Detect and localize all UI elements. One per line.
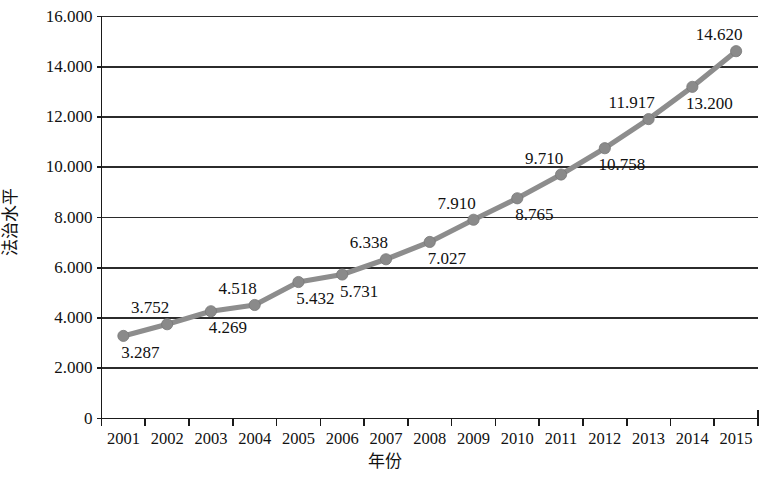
data-point-marker xyxy=(249,299,260,310)
y-axis-tick-label: 0 xyxy=(84,410,93,427)
y-axis-tick-label: 6.000 xyxy=(54,259,92,276)
y-axis-tick-label: 2.000 xyxy=(54,359,92,376)
line-chart: 02.0004.0006.0008.00010.00012.00014.0001… xyxy=(0,0,770,482)
data-point-marker xyxy=(162,319,173,330)
data-point-label: 4.518 xyxy=(208,280,268,298)
data-point-marker xyxy=(468,214,479,225)
data-point-marker xyxy=(555,169,566,180)
data-point-marker xyxy=(337,269,348,280)
data-point-marker xyxy=(731,46,742,57)
x-axis-tick-label: 2015 xyxy=(708,430,764,447)
y-axis-tick-label: 12.000 xyxy=(46,108,93,125)
y-axis-title: 法治水平 xyxy=(1,174,20,270)
data-point-label: 8.765 xyxy=(504,206,564,224)
data-point-label: 4.269 xyxy=(198,319,258,337)
data-point-label: 6.338 xyxy=(339,234,399,252)
data-point-label: 9.710 xyxy=(514,150,574,168)
y-axis-tick-label: 14.000 xyxy=(46,58,93,75)
data-point-marker xyxy=(599,143,610,154)
data-point-marker xyxy=(424,236,435,247)
y-axis-tick-label: 10.000 xyxy=(46,158,93,175)
data-point-label: 7.027 xyxy=(417,250,477,268)
data-point-marker xyxy=(380,254,391,265)
data-point-label: 7.910 xyxy=(427,195,487,213)
data-point-label: 13.200 xyxy=(679,95,739,113)
data-point-marker xyxy=(643,113,654,124)
data-point-label: 11.917 xyxy=(602,94,662,112)
y-axis-tick-label: 16.000 xyxy=(46,8,93,25)
data-point-marker xyxy=(118,330,129,341)
data-point-label: 10.758 xyxy=(592,156,652,174)
data-point-marker xyxy=(205,306,216,317)
data-point-label: 3.752 xyxy=(120,299,180,317)
data-point-label: 3.287 xyxy=(110,344,170,362)
data-point-label: 5.731 xyxy=(329,283,389,301)
y-axis-tick-label: 4.000 xyxy=(54,309,92,326)
y-axis-tick-label: 8.000 xyxy=(54,209,92,226)
data-point-marker xyxy=(512,193,523,204)
data-point-marker xyxy=(687,81,698,92)
data-point-label: 14.620 xyxy=(689,26,749,44)
data-point-marker xyxy=(293,276,304,287)
x-axis-title: 年份 xyxy=(0,452,770,471)
